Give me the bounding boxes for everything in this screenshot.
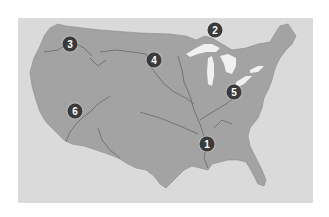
map-marker-5[interactable]: 5 [227,85,242,100]
map-marker-2[interactable]: 2 [208,23,223,38]
map-marker-3[interactable]: 3 [63,37,78,52]
map-marker-1[interactable]: 1 [200,137,215,152]
map-marker-6[interactable]: 6 [68,104,83,119]
map-marker-4[interactable]: 4 [147,53,162,68]
map-panel: 1 2 3 4 5 6 [18,18,313,203]
